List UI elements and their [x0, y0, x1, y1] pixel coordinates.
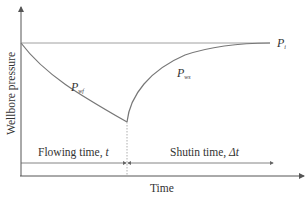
buildup-curve: [127, 43, 270, 122]
flowing-time-label: Flowing time, t: [38, 146, 109, 159]
x-axis-label: Time: [150, 182, 174, 194]
pws-label: Pws: [176, 66, 191, 80]
pi-label: Pi: [276, 36, 286, 50]
pwf-label: Pwf: [70, 80, 85, 94]
pressure-buildup-diagram: Wellbore pressure Time Pwf Pws Pi Flowin…: [0, 0, 307, 201]
y-axis-label: Wellbore pressure: [5, 52, 18, 135]
shutin-time-label: Shutin time, Δt: [170, 146, 240, 159]
